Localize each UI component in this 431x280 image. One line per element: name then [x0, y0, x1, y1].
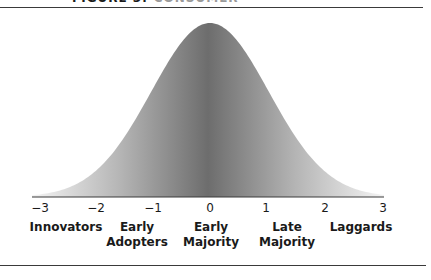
tick-neg2: −2 — [87, 201, 105, 215]
tick-2: 2 — [321, 201, 329, 215]
label-line: Innovators — [30, 220, 103, 235]
label-line: Adopters — [106, 235, 168, 250]
label-innovators: Innovators — [30, 220, 103, 235]
tick-3: 3 — [379, 201, 387, 215]
tick-1: 1 — [262, 201, 270, 215]
tick-neg1: −1 — [144, 201, 162, 215]
tick-neg3: −3 — [31, 201, 49, 215]
label-line: Majority — [183, 235, 239, 250]
bell-curve-area — [32, 23, 384, 197]
label-laggards: Laggards — [330, 220, 393, 235]
label-line: Early — [183, 220, 239, 235]
bottom-rule — [0, 265, 426, 266]
label-early-adopters: Early Adopters — [106, 220, 168, 250]
label-early-majority: Early Majority — [183, 220, 239, 250]
label-line: Majority — [259, 235, 315, 250]
label-line: Early — [106, 220, 168, 235]
tick-0: 0 — [206, 201, 214, 215]
label-late-majority: Late Majority — [259, 220, 315, 250]
label-line: Late — [259, 220, 315, 235]
label-line: Laggards — [330, 220, 393, 235]
